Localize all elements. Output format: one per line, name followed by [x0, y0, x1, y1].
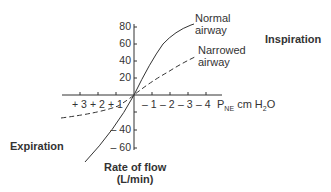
x-tick-minus2: – 2 — [160, 98, 175, 110]
x-axis-label: PNE cm H2O — [217, 98, 275, 115]
x-tick-plus3: + 3 — [72, 98, 87, 110]
narrowed-airway-label: Narrowed airway — [198, 44, 246, 68]
y-tick-neg40: – 40 — [105, 123, 131, 135]
normal-label-line2: airway — [195, 24, 230, 36]
x-tick-minus3: – 3 — [178, 98, 193, 110]
x-tick-minus1: – 1 — [142, 98, 157, 110]
y-axis-label: Rate of flow (L/min) — [104, 161, 166, 185]
inspiration-label: Inspiration — [265, 33, 321, 45]
narrowed-label-line2: airway — [198, 56, 246, 68]
x-label-unit: cm H — [234, 98, 263, 110]
normal-airway-curve — [85, 25, 191, 162]
y-tick-40: 40 — [105, 54, 131, 66]
y-label-line1: Rate of flow — [104, 161, 166, 173]
x-label-sub: NE — [224, 105, 234, 112]
y-label-line2: (L/min) — [104, 173, 166, 185]
normal-leader — [191, 24, 194, 25]
expiration-label: Expiration — [10, 140, 64, 152]
x-tick-plus2: + 2 — [90, 98, 105, 110]
x-label-o: O — [267, 98, 276, 110]
y-tick-20: 20 — [105, 71, 131, 83]
normal-airway-label: Normal airway — [195, 12, 230, 36]
y-tick-neg60: – 60 — [105, 141, 131, 153]
y-tick-80: 80 — [105, 20, 131, 32]
x-tick-plus1: + 1 — [108, 98, 123, 110]
narrowed-label-line1: Narrowed — [198, 44, 246, 56]
x-tick-minus4: – 4 — [196, 98, 211, 110]
y-tick-60: 60 — [105, 37, 131, 49]
normal-label-line1: Normal — [195, 12, 230, 24]
